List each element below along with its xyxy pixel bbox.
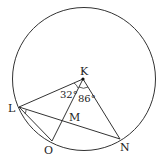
angle-label-lko: 32° xyxy=(60,89,78,100)
angle-label-okn: 86° xyxy=(78,93,96,104)
angle-arc-okn xyxy=(79,87,88,88)
label-l: L xyxy=(8,102,16,115)
angle-arc-lko xyxy=(74,83,78,88)
segment-kn xyxy=(83,79,120,139)
label-m: M xyxy=(69,111,80,124)
circle-diagram: K L M O N 32° 86° xyxy=(0,0,159,161)
label-o: O xyxy=(44,144,53,157)
label-n: N xyxy=(120,141,130,154)
label-k: K xyxy=(80,65,89,78)
